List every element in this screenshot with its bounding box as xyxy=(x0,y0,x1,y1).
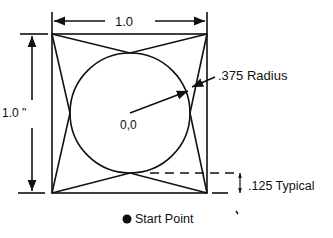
stray-mark xyxy=(236,211,238,214)
width-label: 1.0 xyxy=(115,14,133,29)
offset-label: .125 Typical xyxy=(248,179,314,193)
legend-label: Start Point xyxy=(135,212,194,226)
outer-square xyxy=(52,34,207,193)
drawing-canvas: 1.0 1.0 " .375 Radius 0,0 .125 Typical S… xyxy=(0,0,333,238)
left-triangle xyxy=(52,34,70,193)
top-triangle xyxy=(52,34,207,53)
right-triangle xyxy=(190,34,207,193)
center-label: 0,0 xyxy=(120,118,137,132)
start-point-bullet-icon xyxy=(123,215,132,224)
radius-label: .375 Radius xyxy=(218,68,288,83)
height-label: 1.0 " xyxy=(2,106,26,120)
bottom-triangle xyxy=(52,173,207,193)
